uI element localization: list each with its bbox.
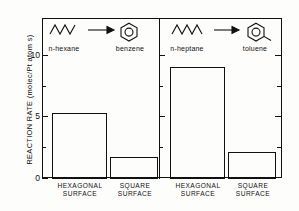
category-line-1: SQUARE — [111, 182, 159, 190]
bar-right-square — [228, 152, 276, 179]
arrow-right-icon — [88, 27, 114, 34]
category-label-right-hexagonal: HEXAGONAL SURFACE — [164, 182, 232, 199]
category-line-1: HEXAGONAL — [46, 182, 114, 190]
divider-tick-5 — [159, 116, 165, 117]
figure-root: REACTION RATE (molec/Pt atom s) 0 5 10 — [0, 0, 299, 211]
y-tick-5 — [42, 116, 48, 117]
arrow-right-icon — [214, 27, 239, 34]
y-tick-10 — [42, 55, 48, 56]
toluene-ring-icon — [248, 23, 271, 41]
divider-tick-10 — [159, 55, 165, 56]
reactant-label-right: n-heptane — [165, 45, 209, 52]
y-tick-0 — [42, 178, 48, 179]
y-tick-2p5 — [42, 147, 46, 148]
right-tick-5 — [275, 116, 281, 117]
right-tick-2p5 — [277, 147, 281, 148]
category-line-2: SURFACE — [111, 190, 159, 198]
category-line-2: SURFACE — [164, 190, 232, 198]
category-label-left-hexagonal: HEXAGONAL SURFACE — [46, 182, 114, 199]
category-line-1: SQUARE — [229, 182, 277, 190]
category-line-2: SURFACE — [46, 190, 114, 198]
bar-right-hexagonal — [170, 67, 225, 179]
category-label-left-square: SQUARE SURFACE — [111, 182, 159, 199]
right-tick-7p5 — [277, 86, 281, 87]
category-line-2: SURFACE — [229, 190, 277, 198]
y-axis-title: REACTION RATE (molec/Pt atom s) — [25, 10, 34, 190]
product-label-right: toluene — [234, 45, 276, 52]
category-line-1: HEXAGONAL — [164, 182, 232, 190]
zigzag-chain-icon — [172, 25, 202, 34]
product-label-left: benzene — [109, 45, 151, 52]
y-tick-label-0: 0 — [26, 173, 40, 183]
panel-divider-axis — [159, 18, 160, 179]
reactant-label-left: n-hexane — [44, 45, 84, 52]
benzene-ring-icon — [121, 23, 137, 41]
right-tick-10 — [275, 55, 281, 56]
y-tick-label-5: 5 — [26, 111, 40, 121]
divider-tick-2p5 — [159, 147, 163, 148]
divider-tick-7p5 — [159, 86, 163, 87]
bar-left-square — [110, 157, 158, 179]
scheme-right — [172, 21, 280, 43]
bar-left-hexagonal — [52, 113, 107, 179]
y-tick-label-10: 10 — [22, 50, 40, 60]
category-label-right-square: SQUARE SURFACE — [229, 182, 277, 199]
scheme-left — [50, 21, 154, 43]
y-tick-7p5 — [42, 86, 46, 87]
zigzag-chain-icon — [50, 25, 75, 34]
